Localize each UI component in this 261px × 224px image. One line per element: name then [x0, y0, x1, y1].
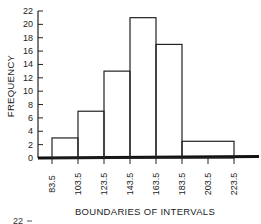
- y-tick-label: 8: [28, 100, 33, 110]
- histogram-bar: [52, 138, 78, 158]
- y-tick-label: 20: [23, 19, 33, 29]
- y-tick-label: 16: [23, 46, 33, 56]
- x-tick-label: 83.5: [47, 175, 57, 193]
- histogram-bar: [78, 111, 104, 158]
- x-tick-label: 223.5: [229, 173, 239, 196]
- x-tick-label: 163.5: [151, 173, 161, 196]
- histogram-chart: 0246810121416182022 83.5103.5123.5143.51…: [0, 0, 261, 224]
- next-figure-tick-label: 22: [13, 216, 23, 224]
- y-axis-title: FREQUENCY: [5, 54, 16, 117]
- y-axis: 0246810121416182022: [23, 6, 43, 163]
- y-tick-label: 2: [28, 140, 33, 150]
- x-tick-label: 103.5: [73, 173, 83, 196]
- y-tick-label: 6: [28, 113, 33, 123]
- y-tick-label: 10: [23, 86, 33, 96]
- y-tick-label: 22: [23, 6, 33, 16]
- x-axis: 83.5103.5123.5143.5163.5183.5203.5223.5: [38, 157, 259, 196]
- y-tick-label: 0: [28, 153, 33, 163]
- y-tick-label: 18: [23, 33, 33, 43]
- y-tick-label: 14: [23, 59, 33, 69]
- histogram-bar: [130, 18, 156, 158]
- histogram-outline: [52, 18, 234, 158]
- x-axis-title: BOUNDARIES OF INTERVALS: [75, 206, 215, 217]
- histogram-bar: [156, 44, 182, 158]
- x-tick-label: 123.5: [99, 173, 109, 196]
- x-tick-label: 203.5: [203, 173, 213, 196]
- histogram-bar: [104, 71, 130, 158]
- x-tick-label: 143.5: [125, 173, 135, 196]
- x-tick-label: 183.5: [177, 173, 187, 196]
- y-tick-label: 4: [28, 126, 33, 136]
- y-tick-label: 12: [23, 73, 33, 83]
